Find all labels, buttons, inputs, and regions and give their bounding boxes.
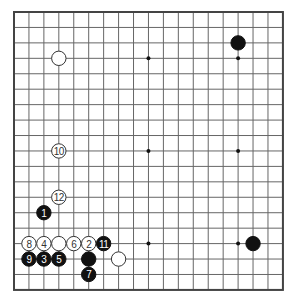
black-stone: 7 <box>82 267 96 281</box>
black-stone: 11 <box>96 236 110 250</box>
black-stone <box>246 236 260 250</box>
black-stone: 9 <box>22 252 36 266</box>
black-stone: 3 <box>37 252 51 266</box>
white-stone-disc <box>111 252 125 266</box>
black-stone <box>231 36 245 50</box>
white-stone <box>52 51 66 65</box>
white-stone-disc <box>52 236 66 250</box>
go-board: 101218462119357 <box>0 0 293 301</box>
star-point <box>146 242 150 246</box>
white-stone: 8 <box>22 236 36 250</box>
white-stone: 4 <box>37 236 51 250</box>
star-point <box>146 56 150 60</box>
black-stone-disc <box>246 236 260 250</box>
white-stone <box>52 236 66 250</box>
white-stone: 10 <box>52 144 66 158</box>
white-stone <box>111 252 125 266</box>
star-point <box>236 149 240 153</box>
black-stone: 1 <box>37 206 51 220</box>
white-stone: 12 <box>52 190 66 204</box>
move-number: 12 <box>54 192 65 203</box>
black-stone-disc <box>231 36 245 50</box>
white-stone: 6 <box>67 236 81 250</box>
star-point <box>236 56 240 60</box>
star-point <box>146 149 150 153</box>
white-stone: 2 <box>82 236 96 250</box>
white-stone-disc <box>52 51 66 65</box>
move-number: 11 <box>99 239 109 250</box>
move-number: 10 <box>54 146 65 157</box>
black-stone <box>82 252 96 266</box>
black-stone-disc <box>82 252 96 266</box>
black-stone: 5 <box>52 252 66 266</box>
star-point <box>236 242 240 246</box>
